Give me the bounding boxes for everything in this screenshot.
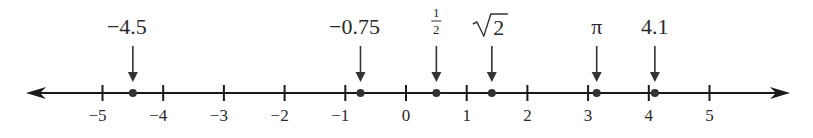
tick-label: −5 bbox=[88, 106, 106, 125]
tick-label: −1 bbox=[331, 106, 349, 125]
pointer-arrow-icon bbox=[128, 72, 138, 82]
pointer-arrow-icon bbox=[355, 72, 365, 82]
point-dot bbox=[432, 89, 440, 97]
number-line-axis bbox=[26, 87, 790, 99]
pointer-arrow-icon bbox=[650, 72, 660, 82]
point-marker-pi: π bbox=[591, 14, 602, 97]
pointer-arrow-icon bbox=[487, 72, 497, 82]
pointer-arrow-icon bbox=[592, 72, 602, 82]
point-label: −0.75 bbox=[329, 14, 380, 39]
tick-marks: −5−4−3−2−1012345 bbox=[88, 85, 713, 125]
fraction-denominator: 2 bbox=[433, 22, 440, 37]
tick-label: −3 bbox=[210, 106, 228, 125]
point-label: π bbox=[591, 14, 602, 39]
point-marker-four-point-one: 4.1 bbox=[641, 14, 669, 97]
tick-label: 2 bbox=[523, 106, 532, 125]
point-label: 4.1 bbox=[641, 14, 669, 39]
point-dot bbox=[488, 89, 496, 97]
point-dot bbox=[651, 89, 659, 97]
sqrt-radicand: 2 bbox=[493, 15, 504, 40]
number-line-diagram: −5−4−3−2−1012345 −4.5−0.75122π4.1 bbox=[0, 0, 813, 138]
tick-label: −2 bbox=[271, 106, 289, 125]
point-marker-half: 12 bbox=[431, 5, 441, 97]
number-line-svg: −5−4−3−2−1012345 −4.5−0.75122π4.1 bbox=[0, 0, 813, 138]
tick-label: 3 bbox=[584, 106, 593, 125]
tick-label: 4 bbox=[645, 106, 654, 125]
point-dot bbox=[129, 89, 137, 97]
point-dot bbox=[356, 89, 364, 97]
fraction-numerator: 1 bbox=[433, 5, 440, 20]
point-marker-sqrt2: 2 bbox=[473, 14, 508, 97]
tick-label: −4 bbox=[149, 106, 168, 125]
tick-label: 5 bbox=[705, 106, 714, 125]
plotted-points: −4.5−0.75122π4.1 bbox=[107, 5, 669, 97]
tick-label: 0 bbox=[402, 106, 411, 125]
pointer-arrow-icon bbox=[431, 72, 441, 82]
point-marker-neg-4-5: −4.5 bbox=[107, 14, 147, 97]
point-label: −4.5 bbox=[107, 14, 147, 39]
tick-label: 1 bbox=[462, 106, 471, 125]
point-marker-neg-0-75: −0.75 bbox=[329, 14, 380, 97]
point-dot bbox=[593, 89, 601, 97]
